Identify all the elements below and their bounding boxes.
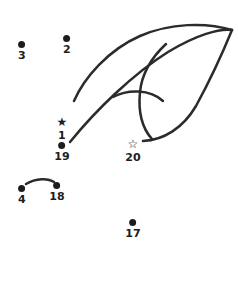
dot-number-label: 18: [49, 191, 65, 202]
dot-marker-icon: [18, 185, 25, 192]
dot-number-label: 17: [125, 228, 141, 239]
right-outer-sweep: [143, 30, 232, 141]
dot-marker-icon: [54, 182, 61, 189]
dot-number-label: 2: [63, 44, 71, 55]
dot-marker-icon: [59, 142, 66, 149]
dot-point-20[interactable]: ☆20: [125, 139, 141, 163]
filled-star-icon: ★: [57, 117, 68, 128]
dot-point-18[interactable]: 18: [49, 182, 65, 202]
dot-marker-icon: [18, 41, 25, 48]
dot-number-label: 3: [18, 50, 26, 61]
interior-eyebrow-arc: [113, 91, 163, 101]
open-star-icon: ☆: [128, 139, 139, 150]
dot-point-4[interactable]: 4: [18, 185, 26, 205]
dot-point-19[interactable]: 19: [54, 142, 70, 162]
dot-number-label: 1: [57, 130, 68, 141]
dot-number-label: 4: [18, 194, 26, 205]
dot-number-label: 20: [125, 152, 141, 163]
dot-point-1[interactable]: ★1: [57, 117, 68, 141]
connect-the-dots-puzzle: ★1234171819☆20: [0, 0, 238, 284]
dot-point-17[interactable]: 17: [125, 219, 141, 239]
puzzle-artwork: [0, 0, 238, 284]
dot-point-2[interactable]: 2: [63, 35, 71, 55]
dot-marker-icon: [130, 219, 137, 226]
dot-point-3[interactable]: 3: [18, 41, 26, 61]
dot-marker-icon: [63, 35, 70, 42]
dot-number-label: 19: [54, 151, 70, 162]
